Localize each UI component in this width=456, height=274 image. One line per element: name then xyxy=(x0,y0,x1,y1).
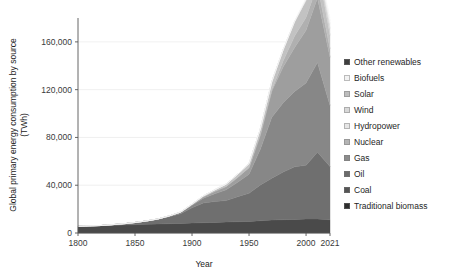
legend-swatch-icon xyxy=(344,187,350,193)
legend-item-label: Traditional biomass xyxy=(354,198,427,214)
legend-item[interactable]: Biofuels xyxy=(344,70,456,86)
y-tick-label: 40,000 xyxy=(46,180,72,190)
chart-figure: 040,00080,000120,000160,000 180018501900… xyxy=(0,0,456,274)
legend-item[interactable]: Solar xyxy=(344,86,456,102)
x-tick-label: 1850 xyxy=(126,238,145,248)
legend-swatch-icon xyxy=(344,203,350,209)
legend-item-label: Solar xyxy=(354,86,374,102)
legend-item[interactable]: Other renewables xyxy=(344,54,456,70)
legend-swatch-icon xyxy=(344,139,350,145)
legend-item-label: Oil xyxy=(354,166,364,182)
legend-item[interactable]: Nuclear xyxy=(344,134,456,150)
x-tick-label: 2021 xyxy=(321,238,340,248)
legend-item-label: Wind xyxy=(354,102,373,118)
x-tick-label: 1950 xyxy=(240,238,259,248)
legend-item-label: Gas xyxy=(354,150,370,166)
x-tick-label: 1900 xyxy=(183,238,202,248)
legend-swatch-icon xyxy=(344,91,350,97)
legend-swatch-icon xyxy=(344,155,350,161)
x-axis-ticks: 180018501900195020002021 xyxy=(69,233,340,248)
chart-legend: Other renewablesBiofuelsSolarWindHydropo… xyxy=(344,54,456,214)
legend-item-label: Hydropower xyxy=(354,118,400,134)
y-axis-ticks: 040,00080,000120,000160,000 xyxy=(41,37,78,238)
legend-swatch-icon xyxy=(344,171,350,177)
y-tick-label: 160,000 xyxy=(41,37,72,47)
legend-item-label: Biofuels xyxy=(354,70,384,86)
legend-item[interactable]: Gas xyxy=(344,150,456,166)
legend-item[interactable]: Traditional biomass xyxy=(344,198,456,214)
x-tick-label: 2000 xyxy=(297,238,316,248)
legend-item[interactable]: Coal xyxy=(344,182,456,198)
legend-item-label: Coal xyxy=(354,182,371,198)
legend-swatch-icon xyxy=(344,59,350,65)
legend-swatch-icon xyxy=(344,75,350,81)
legend-item-label: Other renewables xyxy=(354,54,421,70)
x-tick-label: 1800 xyxy=(69,238,88,248)
legend-item[interactable]: Wind xyxy=(344,102,456,118)
legend-swatch-icon xyxy=(344,123,350,129)
y-axis-title-line1: Global primary energy consumption by sou… xyxy=(8,38,18,212)
y-tick-label: 120,000 xyxy=(41,85,72,95)
y-tick-label: 80,000 xyxy=(46,132,72,142)
legend-item[interactable]: Hydropower xyxy=(344,118,456,134)
y-axis-title-line2: (TWh) xyxy=(19,113,29,137)
legend-item[interactable]: Oil xyxy=(344,166,456,182)
x-axis-title: Year xyxy=(195,259,212,269)
y-tick-label: 0 xyxy=(67,228,72,238)
legend-swatch-icon xyxy=(344,107,350,113)
legend-item-label: Nuclear xyxy=(354,134,383,150)
